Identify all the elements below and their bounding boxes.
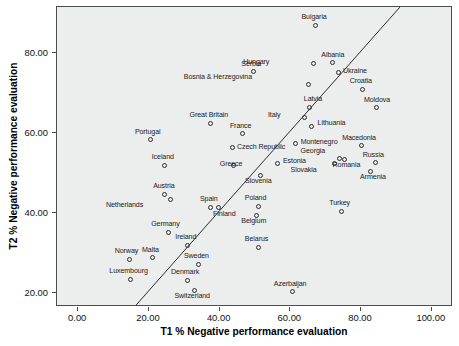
data-point	[336, 70, 341, 75]
data-point	[359, 143, 364, 148]
data-point	[166, 230, 171, 235]
data-point-label: Switzerland	[174, 293, 210, 300]
y-tick-mark	[52, 212, 56, 213]
data-point-label: Latvia	[304, 96, 322, 103]
x-tick-mark	[289, 307, 290, 311]
data-point-label: Estonia	[283, 158, 306, 165]
data-point-label: Azerbaijan	[274, 281, 307, 288]
data-point	[330, 60, 335, 65]
data-point-label: Sweden	[184, 253, 209, 260]
x-tick-label: 0.00	[68, 312, 86, 323]
data-point-label: Ireland	[175, 234, 196, 241]
y-tick-mark	[52, 292, 56, 293]
data-point-label: Turkey	[329, 200, 350, 207]
data-point	[373, 160, 378, 165]
data-point-label: Moldova	[364, 97, 390, 104]
data-point	[128, 277, 133, 282]
x-tick-label: 100.00	[416, 312, 445, 323]
data-point	[196, 262, 201, 267]
data-point	[293, 141, 298, 146]
data-point-label: Finland	[213, 211, 236, 218]
data-point	[256, 245, 261, 250]
data-point	[208, 205, 213, 210]
y-tick-label: 40.00	[25, 207, 48, 218]
data-point-label: Austria	[153, 183, 174, 190]
data-point	[185, 278, 190, 283]
data-point-label: Montenegro	[301, 139, 338, 146]
data-point-label: Czech Republic	[237, 144, 285, 151]
data-point-label: Albania	[321, 52, 344, 59]
data-point	[256, 204, 261, 209]
data-point-label: Portugal	[135, 129, 161, 136]
scatter-plot-figure: BulgariaAlbaniaHungarySerbiaUkraineBosni…	[0, 0, 459, 346]
data-point	[240, 131, 245, 136]
data-point	[374, 105, 379, 110]
data-point-label: Greece	[220, 161, 243, 168]
data-point-label: Iceland	[152, 154, 174, 161]
data-point-label: Denmark	[171, 269, 199, 276]
y-tick-mark	[52, 52, 56, 53]
data-point-label: Serbia	[241, 61, 261, 68]
y-tick-label: 80.00	[25, 47, 48, 58]
data-point	[290, 289, 295, 294]
identity-reference-line	[57, 7, 451, 305]
data-point	[339, 209, 344, 214]
data-point-label: Armenia	[360, 174, 386, 181]
data-point-label: Croatia	[350, 78, 372, 85]
data-point	[185, 243, 190, 248]
plot-frame: BulgariaAlbaniaHungarySerbiaUkraineBosni…	[56, 6, 452, 306]
data-point	[162, 192, 167, 197]
data-point-label: Slovakia	[291, 167, 317, 174]
data-point-label: Ukraine	[343, 68, 367, 75]
data-point-label: Great Britain	[190, 112, 229, 119]
data-point	[208, 121, 213, 126]
data-point	[150, 255, 155, 260]
data-point	[127, 257, 132, 262]
data-point-label: Macedonia	[342, 135, 376, 142]
data-point	[275, 161, 280, 166]
data-point	[311, 61, 316, 66]
data-point-label: Belgium	[241, 218, 266, 225]
x-tick-mark	[431, 307, 432, 311]
data-point	[309, 124, 314, 129]
data-point-label: Bosnia & Herzegovina	[184, 74, 252, 81]
data-point-label: Malta	[142, 247, 159, 254]
data-point-label: Slovenia	[245, 178, 271, 185]
data-point-label: Georgia	[301, 148, 326, 155]
x-tick-mark	[148, 307, 149, 311]
data-point	[337, 156, 342, 161]
data-point-label: Spain	[200, 196, 218, 203]
x-tick-label: 20.00	[136, 312, 159, 323]
data-point-label: Germany	[151, 221, 179, 228]
y-axis-title: T2 % Negative performance evaluation	[8, 6, 22, 306]
data-point	[360, 87, 365, 92]
x-tick-mark	[360, 307, 361, 311]
data-point	[168, 197, 173, 202]
plot-area: BulgariaAlbaniaHungarySerbiaUkraineBosni…	[57, 7, 451, 305]
data-point-label: Belarus	[245, 236, 268, 243]
x-tick-mark	[219, 307, 220, 311]
data-point	[307, 105, 312, 110]
data-point-label: Russia	[363, 152, 384, 159]
y-tick-label: 20.00	[25, 287, 48, 298]
data-point-label: Lithuania	[318, 120, 346, 127]
data-point	[230, 145, 235, 150]
y-tick-label: 60.00	[25, 127, 48, 138]
data-point-label: Poland	[245, 195, 267, 202]
data-point	[306, 82, 311, 87]
data-point	[162, 163, 167, 168]
data-point	[313, 23, 318, 28]
x-tick-mark	[77, 307, 78, 311]
data-point-label: Bulgaria	[301, 14, 326, 21]
data-point-label: Netherlands	[106, 202, 143, 209]
x-tick-label: 80.00	[348, 312, 371, 323]
data-point-label: France	[230, 123, 251, 130]
data-point-label: Italy	[268, 112, 281, 119]
x-axis-title: T1 % Negative performance evaluation	[56, 326, 452, 337]
data-point	[302, 115, 307, 120]
y-tick-mark	[52, 132, 56, 133]
data-point	[148, 137, 153, 142]
x-tick-label: 40.00	[207, 312, 230, 323]
data-point-label: Luxembourg	[109, 268, 147, 275]
data-point-label: Norway	[115, 248, 138, 255]
